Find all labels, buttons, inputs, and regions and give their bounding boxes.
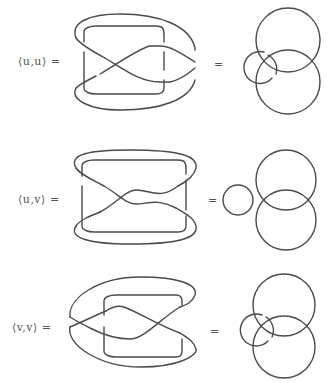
- circle-small-separate: [223, 185, 253, 215]
- circles-vv: [0, 255, 336, 383]
- row-uv: ⟨u,v⟩ = =: [0, 128, 336, 256]
- circle-top: [253, 274, 315, 336]
- circles-uu: [0, 0, 336, 128]
- row-uu: ⟨u,u⟩ = =: [0, 0, 336, 128]
- circle-bottom: [256, 190, 316, 250]
- circle-small-linked: [244, 51, 272, 83]
- circle-bottom: [253, 316, 315, 378]
- circle-top: [256, 8, 320, 72]
- circles-uv: [0, 128, 336, 256]
- circle-top: [256, 150, 316, 210]
- row-vv: ⟨v,v⟩ = =: [0, 255, 336, 383]
